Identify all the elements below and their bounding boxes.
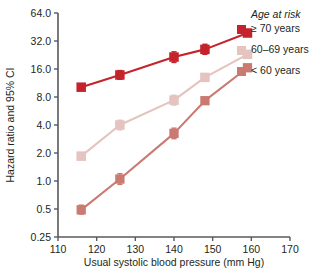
data-point-marker xyxy=(77,205,86,214)
x-tick-label: 130 xyxy=(127,243,145,255)
x-tick-label: 140 xyxy=(165,243,183,255)
y-tick-label: 1.0 xyxy=(36,175,51,187)
y-tick-label: 8.0 xyxy=(36,91,51,103)
data-point-marker xyxy=(115,120,125,130)
legend-swatch xyxy=(237,25,246,34)
y-tick-label: 16.0 xyxy=(31,63,52,75)
x-tick-label: 150 xyxy=(204,243,222,255)
data-point-marker xyxy=(169,95,179,105)
data-point-marker xyxy=(115,70,125,80)
series-line xyxy=(81,68,247,210)
data-point-marker xyxy=(200,96,209,105)
y-tick-label: 32.0 xyxy=(31,35,52,47)
series-2 xyxy=(76,50,252,161)
series-1 xyxy=(76,28,252,92)
legend-entry-label: 60–69 years xyxy=(251,43,309,55)
data-point-marker xyxy=(169,129,178,138)
legend-entry-label: ≥ 70 years xyxy=(251,22,300,34)
data-point-marker xyxy=(200,45,210,55)
legend-entry-label: < 60 years xyxy=(251,64,300,76)
data-point-marker xyxy=(76,151,86,161)
data-point-marker xyxy=(115,174,124,183)
y-tick-label: 0.25 xyxy=(31,231,52,243)
y-tick-label: 64.0 xyxy=(31,7,52,19)
y-tick-label: 0.5 xyxy=(36,203,51,215)
y-tick-label: 4.0 xyxy=(36,119,51,131)
x-tick-label: 120 xyxy=(88,243,106,255)
legend-title: Age at risk xyxy=(250,8,301,20)
legend-swatch xyxy=(237,46,246,55)
x-axis-title: Usual systolic blood pressure (mm Hg) xyxy=(84,256,264,268)
x-tick-label: 170 xyxy=(281,243,299,255)
data-point-marker xyxy=(169,52,179,62)
y-tick-label: 2.0 xyxy=(36,147,51,159)
data-point-marker xyxy=(76,82,86,92)
legend-swatch xyxy=(237,67,246,76)
hazard-ratio-chart: 64.032.016.08.04.02.01.00.50.25110120130… xyxy=(0,0,322,271)
chart-canvas: 64.032.016.08.04.02.01.00.50.25110120130… xyxy=(0,0,322,271)
data-point-marker xyxy=(200,73,210,83)
series-line xyxy=(81,33,247,87)
x-tick-label: 160 xyxy=(243,243,261,255)
y-axis-title: Hazard ratio and 95% CI xyxy=(4,68,16,183)
x-tick-label: 110 xyxy=(50,243,67,255)
